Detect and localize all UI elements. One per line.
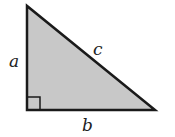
label-c: c [93, 39, 103, 59]
label-b: b [82, 115, 93, 135]
right-triangle [27, 6, 155, 110]
label-a: a [9, 51, 19, 71]
triangle-diagram: a c b [0, 0, 175, 137]
